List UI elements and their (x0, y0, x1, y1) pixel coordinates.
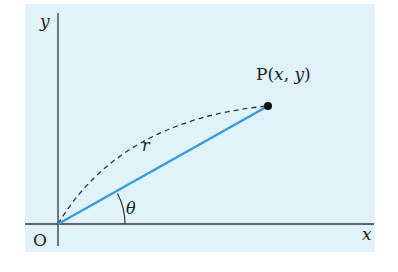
angle-arc (118, 194, 126, 225)
x-axis-label: x (362, 224, 372, 244)
point-p-comma: , (284, 64, 295, 84)
radius-segment (58, 106, 268, 224)
point-p-x: x (274, 64, 284, 84)
polar-diagram: y x O r θ P(x, y) (0, 0, 398, 272)
radius-label: r (142, 136, 151, 155)
y-axis-label: y (39, 11, 50, 31)
origin-label: O (33, 230, 47, 250)
point-p-y: y (294, 64, 305, 84)
point-p-dot (264, 102, 272, 110)
point-p-close-paren: ) (304, 64, 311, 84)
angle-label: θ (126, 199, 136, 218)
point-p-open-paren: ( (267, 64, 274, 84)
point-p-name: P (256, 64, 267, 84)
point-p-label: P(x, y) (256, 64, 311, 84)
